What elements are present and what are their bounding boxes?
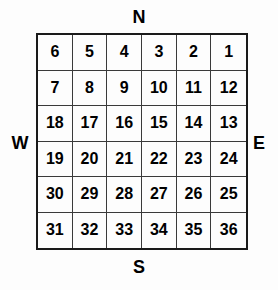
grid-cell[interactable]: 25	[211, 177, 246, 213]
grid-cell[interactable]: 9	[107, 71, 142, 107]
grid-cell[interactable]: 14	[177, 106, 212, 142]
grid-cell[interactable]: 17	[73, 106, 108, 142]
grid-cell[interactable]: 6	[38, 35, 73, 71]
grid-cell[interactable]: 8	[73, 71, 108, 107]
grid-cell[interactable]: 2	[177, 35, 212, 71]
grid-cell[interactable]: 15	[142, 106, 177, 142]
grid-cell[interactable]: 28	[107, 177, 142, 213]
compass-label-south: S	[0, 258, 278, 276]
grid-cell[interactable]: 29	[73, 177, 108, 213]
grid-cell[interactable]: 32	[73, 213, 108, 249]
grid-cell[interactable]: 5	[73, 35, 108, 71]
grid-cell[interactable]: 26	[177, 177, 212, 213]
grid-cell[interactable]: 16	[107, 106, 142, 142]
grid-cell[interactable]: 20	[73, 142, 108, 178]
grid-cell[interactable]: 24	[211, 142, 246, 178]
grid-cell[interactable]: 19	[38, 142, 73, 178]
grid-cell[interactable]: 27	[142, 177, 177, 213]
compass-label-east: E	[248, 134, 270, 152]
grid-cell[interactable]: 34	[142, 213, 177, 249]
grid-cell[interactable]: 10	[142, 71, 177, 107]
numbered-grid-diagram: N W E S 65432178910111218171615141319202…	[0, 0, 278, 290]
grid-cell[interactable]: 35	[177, 213, 212, 249]
compass-label-west: W	[10, 134, 30, 152]
compass-label-north: N	[0, 8, 278, 26]
grid-cell[interactable]: 31	[38, 213, 73, 249]
grid-cell[interactable]: 1	[211, 35, 246, 71]
grid-cell[interactable]: 23	[177, 142, 212, 178]
grid-cell[interactable]: 30	[38, 177, 73, 213]
grid-cell[interactable]: 22	[142, 142, 177, 178]
grid-cell[interactable]: 13	[211, 106, 246, 142]
grid-cell[interactable]: 7	[38, 71, 73, 107]
number-grid: 6543217891011121817161514131920212223243…	[36, 33, 248, 250]
grid-cell[interactable]: 33	[107, 213, 142, 249]
grid-cell[interactable]: 4	[107, 35, 142, 71]
grid-cell[interactable]: 12	[211, 71, 246, 107]
grid-cell[interactable]: 18	[38, 106, 73, 142]
grid-cell[interactable]: 21	[107, 142, 142, 178]
grid-cell[interactable]: 11	[177, 71, 212, 107]
grid-cell[interactable]: 36	[211, 213, 246, 249]
grid-cell[interactable]: 3	[142, 35, 177, 71]
